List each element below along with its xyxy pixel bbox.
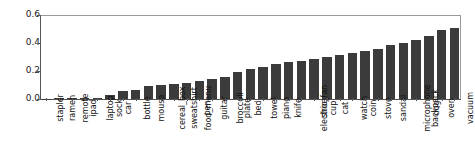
bar-slot xyxy=(155,15,168,99)
x-axis-label-slot: vacuum xyxy=(448,101,461,167)
bar xyxy=(271,64,280,99)
bar-slot xyxy=(91,15,104,99)
bar xyxy=(450,28,459,99)
bar xyxy=(284,62,293,99)
x-axis-tick-mark xyxy=(46,98,47,101)
x-axis-label-slot: microphone xyxy=(397,101,410,167)
x-axis-label-slot: remote xyxy=(66,101,79,167)
x-axis-label-slot: laptop xyxy=(91,101,104,167)
bar xyxy=(399,43,408,99)
x-axis-label-slot: bottle xyxy=(129,101,142,167)
bar-slot xyxy=(231,15,244,99)
x-axis-tick-mark xyxy=(85,98,86,101)
y-axis-tick-label: 0.6 xyxy=(10,10,40,19)
x-axis-tick-mark xyxy=(289,98,290,101)
bar xyxy=(348,53,357,99)
x-axis-label-group: staplerramenremoteipadlaptopsockcarbottl… xyxy=(40,101,461,167)
x-axis-label-slot: plate xyxy=(231,101,244,167)
x-axis-tick-mark xyxy=(263,98,264,101)
x-axis-tick-mark xyxy=(187,98,188,101)
x-axis-label-slot: stove xyxy=(372,101,385,167)
bar-slot xyxy=(270,15,283,99)
bar-slot xyxy=(66,15,79,99)
x-axis-tick-mark xyxy=(429,98,430,101)
x-axis-tick-mark xyxy=(352,98,353,101)
bar xyxy=(169,84,178,99)
bar-slot xyxy=(397,15,410,99)
bar-slot xyxy=(244,15,257,99)
x-axis-label-slot: cereal_box xyxy=(155,101,168,167)
x-axis-label-slot: ipad xyxy=(78,101,91,167)
bar xyxy=(246,69,255,99)
x-axis-label-slot: watch xyxy=(346,101,359,167)
bar-slot xyxy=(40,15,53,99)
x-axis-label-slot: broccoli xyxy=(219,101,232,167)
x-axis-label-slot: bed xyxy=(244,101,257,167)
bar xyxy=(360,51,369,99)
bar-slot xyxy=(282,15,295,99)
x-axis-label-slot: sock xyxy=(104,101,117,167)
bar-slot xyxy=(219,15,232,99)
bar-slot xyxy=(359,15,372,99)
x-axis-tick-mark xyxy=(301,98,302,101)
x-axis-label-slot: knife xyxy=(282,101,295,167)
x-axis-label-slot: guitar xyxy=(206,101,219,167)
x-axis-label-slot: cat xyxy=(333,101,346,167)
x-axis-label-slot: pen xyxy=(193,101,206,167)
bar-slot xyxy=(53,15,66,99)
bar-slot xyxy=(346,15,359,99)
x-axis-tick-mark xyxy=(148,98,149,101)
x-axis-tick-mark xyxy=(110,98,111,101)
bar xyxy=(411,40,420,100)
y-axis-tick-group: 0.00.20.40.6 xyxy=(0,0,40,167)
x-axis-tick-mark xyxy=(225,98,226,101)
x-axis-tick-mark xyxy=(327,98,328,101)
x-axis-label-slot: electric_fan xyxy=(295,101,308,167)
bar-slot xyxy=(129,15,142,99)
x-axis-label-slot: stapler xyxy=(40,101,53,167)
x-axis-tick-mark xyxy=(97,98,98,101)
x-axis-label-slot: piano xyxy=(270,101,283,167)
bar xyxy=(373,49,382,99)
x-axis-label-slot: backpack xyxy=(410,101,423,167)
x-axis-label-slot: sweatshirt xyxy=(168,101,181,167)
x-axis-tick-mark xyxy=(391,98,392,101)
bar-slot xyxy=(372,15,385,99)
x-axis-tick-mark xyxy=(314,98,315,101)
y-axis-tick-label: 0.2 xyxy=(10,66,40,75)
bar xyxy=(297,61,306,100)
x-axis-tick-mark xyxy=(174,98,175,101)
bar-slot xyxy=(78,15,91,99)
x-axis-tick-label: vacuum xyxy=(466,92,475,124)
x-axis-tick-mark xyxy=(136,98,137,101)
x-axis-tick-mark xyxy=(212,98,213,101)
bar-slot xyxy=(142,15,155,99)
bar-slot xyxy=(104,15,117,99)
bar-series xyxy=(40,15,461,99)
y-axis-tick-label: 0.0 xyxy=(10,94,40,103)
x-axis-label-slot: food_menu xyxy=(180,101,193,167)
x-axis-tick-mark xyxy=(340,98,341,101)
x-axis-label-slot: dog xyxy=(423,101,436,167)
bar xyxy=(386,45,395,99)
bar-slot xyxy=(410,15,423,99)
x-axis-label-slot: ramen xyxy=(53,101,66,167)
bar-slot xyxy=(257,15,270,99)
bar-slot xyxy=(384,15,397,99)
x-axis-label-slot: cup xyxy=(321,101,334,167)
y-axis-tick-label: 0.4 xyxy=(10,38,40,47)
x-axis-tick-mark xyxy=(365,98,366,101)
x-axis-tick-mark xyxy=(454,98,455,101)
x-axis-label-slot: car xyxy=(117,101,130,167)
bar-slot xyxy=(333,15,346,99)
x-axis-label-slot: coin xyxy=(359,101,372,167)
x-axis-tick-mark xyxy=(72,98,73,101)
x-axis-tick-mark xyxy=(416,98,417,101)
x-axis-label-slot: oven xyxy=(435,101,448,167)
x-axis-tick-mark xyxy=(59,98,60,101)
x-axis-tick-mark xyxy=(199,98,200,101)
bar-slot xyxy=(435,15,448,99)
bar xyxy=(309,59,318,99)
bar-slot xyxy=(448,15,461,99)
